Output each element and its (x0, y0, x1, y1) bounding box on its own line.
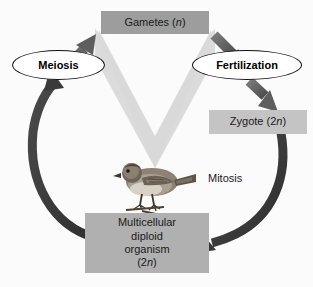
node-organism-line-2: diploid (131, 230, 163, 243)
edge-label-mitosis: Mitosis (208, 172, 242, 184)
node-organism[interactable]: Multicellular diploid organism (2n) (85, 213, 209, 273)
node-organism-line-1: Multicellular (118, 216, 176, 229)
node-meiosis[interactable]: Meiosis (12, 50, 105, 80)
arrow-fertilization-to-zygote (249, 81, 265, 96)
node-gametes[interactable]: Gametes (n) (101, 11, 209, 34)
background-chevron-body (97, 30, 213, 168)
node-organism-line-4: (2n) (137, 256, 157, 269)
node-zygote[interactable]: Zygote (2n) (209, 110, 307, 134)
node-meiosis-label: Meiosis (38, 59, 78, 71)
bird-illustration (112, 152, 198, 218)
node-fertilization[interactable]: Fertilization (192, 50, 302, 80)
node-organism-line-3: organism (124, 243, 169, 256)
arrow-zygote-to-organism (212, 133, 283, 243)
life-cycle-diagram: Gametes (n) Zygote (2n) Multicellular di… (0, 0, 313, 287)
node-zygote-label: Zygote (2n) (230, 115, 286, 128)
node-gametes-label: Gametes (n) (124, 16, 185, 29)
node-fertilization-label: Fertilization (216, 59, 278, 71)
